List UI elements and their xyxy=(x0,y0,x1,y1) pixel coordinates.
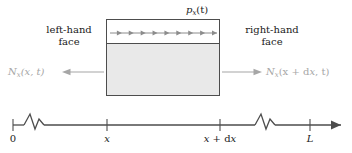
diagram-canvas: px(t) left-hand face right-hand face Nx(… xyxy=(0,0,352,153)
x-axis xyxy=(0,0,352,153)
x-axis-tick-label: 0 xyxy=(0,133,53,145)
x-axis-tick-label: x + dx xyxy=(180,133,260,145)
x-axis-tick-label: L xyxy=(270,133,350,145)
x-axis-tick-label: x xyxy=(67,133,147,145)
